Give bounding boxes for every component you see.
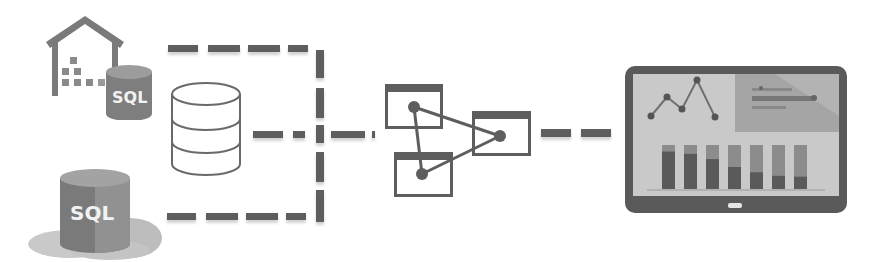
sql-database-icon: SQL xyxy=(40,10,160,120)
tablet-dashboard-icon xyxy=(625,66,847,213)
linked-windows xyxy=(380,78,540,203)
dashboard-tablet xyxy=(625,66,847,213)
sql-label: SQL xyxy=(112,88,147,107)
home-button xyxy=(728,203,742,208)
sql-label: SQL xyxy=(70,201,114,225)
on-prem-sql-source: SQL xyxy=(40,10,160,120)
connected-nodes-windows-icon xyxy=(380,78,540,203)
central-database xyxy=(168,80,244,180)
database-cylinder-icon xyxy=(168,80,244,180)
cloud-sql-source: SQL xyxy=(20,160,170,260)
sql-database-icon: SQL xyxy=(20,160,170,260)
